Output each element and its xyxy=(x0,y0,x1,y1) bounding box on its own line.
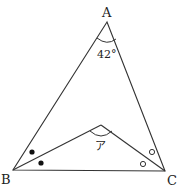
bisector-b xyxy=(13,125,101,170)
vertex-label-b: B xyxy=(1,172,11,187)
angle-mark-c1 xyxy=(149,149,154,154)
angle-p-label: ア xyxy=(95,140,106,153)
angle-mark-b2 xyxy=(38,160,43,165)
vertex-label-c: C xyxy=(167,173,177,187)
angle-mark-c2 xyxy=(140,161,145,166)
vertex-label-a: A xyxy=(101,5,112,20)
triangle-diagram: A B C 42° ア xyxy=(0,0,180,187)
angle-a-value: 42° xyxy=(97,48,117,61)
angle-arc-p xyxy=(90,131,112,136)
triangle-abc xyxy=(13,22,165,171)
angle-mark-b1 xyxy=(29,149,34,154)
